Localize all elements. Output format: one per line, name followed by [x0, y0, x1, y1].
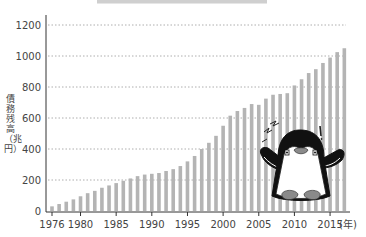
- bar-1991: [157, 173, 161, 211]
- x-tick-labels: 197619801985199019952000200520102015: [39, 219, 343, 230]
- y-tick-label: 0: [35, 206, 41, 217]
- bar-1983: [100, 188, 104, 211]
- x-unit-label: (年): [339, 218, 357, 230]
- bar-1985: [114, 183, 118, 211]
- bar-1990: [150, 174, 154, 211]
- bar-1984: [107, 185, 111, 211]
- x-tick-label: 1980: [68, 219, 93, 230]
- bar-2004: [250, 104, 254, 211]
- x-tick-label: 2005: [246, 219, 271, 230]
- bar-1995: [186, 161, 190, 211]
- bar-1977: [57, 204, 61, 211]
- y-tick-labels: 020040060080010001200: [16, 20, 41, 217]
- y-tick-label: 800: [22, 82, 41, 93]
- x-tick-label: 1976: [39, 219, 64, 230]
- bar-2017: [343, 48, 347, 211]
- bar-2002: [236, 111, 240, 211]
- x-tick-label: 2010: [282, 219, 307, 230]
- x-tick-label: 1990: [139, 219, 164, 230]
- bar-1976: [50, 206, 54, 211]
- bar-1979: [72, 199, 76, 211]
- bar-1999: [214, 136, 218, 211]
- bar-1989: [143, 175, 147, 211]
- bar-chart: 020040060080010001200 197619801985199019…: [0, 0, 366, 237]
- y-axis-label: 債務残高（兆円）: [4, 94, 16, 154]
- y-tick-label: 600: [22, 113, 41, 124]
- bar-1981: [86, 193, 90, 211]
- bar-1997: [200, 149, 204, 211]
- x-tick-label: 1995: [175, 219, 200, 230]
- bar-2000: [221, 126, 225, 211]
- bar-1982: [93, 191, 97, 211]
- bar-1986: [122, 181, 126, 211]
- bar-1987: [129, 178, 133, 211]
- bar-1994: [179, 166, 183, 211]
- x-tick-label: 2000: [210, 219, 235, 230]
- bar-1992: [164, 171, 168, 211]
- bar-1996: [193, 156, 197, 211]
- bar-1998: [207, 143, 211, 211]
- x-tick-label: 1985: [103, 219, 128, 230]
- bar-1978: [64, 202, 68, 211]
- y-tick-label: 200: [22, 175, 41, 186]
- bar-2016: [335, 52, 339, 211]
- bar-1988: [136, 176, 140, 211]
- bar-2003: [243, 108, 247, 211]
- bar-1993: [171, 169, 175, 211]
- y-tick-label: 1200: [16, 20, 41, 31]
- bar-1980: [79, 196, 83, 211]
- bar-2005: [257, 105, 261, 211]
- bar-2001: [228, 116, 232, 211]
- y-tick-label: 1000: [16, 51, 41, 62]
- y-tick-label: 400: [22, 144, 41, 155]
